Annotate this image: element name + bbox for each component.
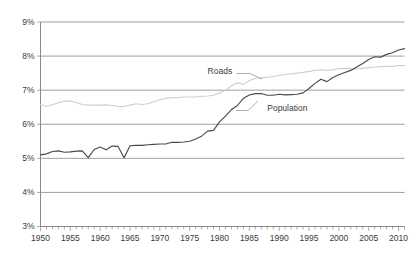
series-annotation-population: Population	[267, 103, 307, 113]
y-tick-label: 8%	[22, 51, 35, 61]
x-tick-label: 1980	[210, 233, 229, 243]
y-tick-label: 9%	[22, 17, 35, 27]
x-tick-label: 1990	[270, 233, 289, 243]
chart-container: 9%8%7%6%5%4%3% 1950195519601965197019751…	[0, 0, 413, 256]
y-tick-label: 5%	[22, 153, 35, 163]
x-tick-label: 1985	[240, 233, 259, 243]
x-tick-label: 1965	[121, 233, 140, 243]
x-tick-label: 1950	[31, 233, 50, 243]
x-tick-label: 2010	[389, 233, 408, 243]
x-tick-label: 1960	[91, 233, 110, 243]
y-tick-label: 3%	[22, 221, 35, 231]
y-tick-label: 7%	[22, 85, 35, 95]
x-tick-label: 1955	[61, 233, 80, 243]
y-tick-labels: 9%8%7%6%5%4%3%	[22, 17, 40, 232]
y-tick-label: 6%	[22, 119, 35, 129]
series-annotations: RoadsPopulation	[208, 66, 308, 113]
x-tick-label: 1970	[150, 233, 169, 243]
x-minor-ticks	[41, 227, 405, 232]
x-tick-label: 1975	[180, 233, 199, 243]
x-tick-label: 2005	[359, 233, 378, 243]
y-tick-label: 4%	[22, 187, 35, 197]
x-tick-label: 1995	[300, 233, 319, 243]
gridlines	[41, 22, 405, 227]
x-tick-labels: 1950195519601965197019751980198519901995…	[31, 233, 408, 243]
line-chart: 9%8%7%6%5%4%3% 1950195519601965197019751…	[0, 0, 413, 256]
x-tick-label: 2000	[329, 233, 348, 243]
series-annotation-roads: Roads	[208, 66, 233, 76]
